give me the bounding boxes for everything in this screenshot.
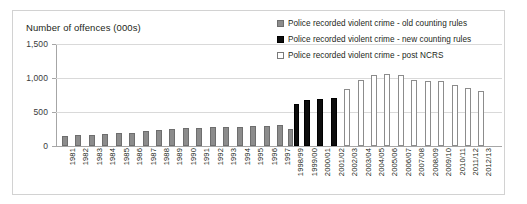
x-tick-label: 2010/11 xyxy=(458,148,467,176)
x-axis-labels: 1981198219831984198519861987198819891990… xyxy=(56,148,502,192)
x-tick-label: 1982 xyxy=(81,148,90,165)
x-tick-label: 1988 xyxy=(162,148,171,165)
x-tick-label: 1992 xyxy=(216,148,225,165)
x-tick-label: 2003/04 xyxy=(364,148,373,176)
x-tick-label: 1990 xyxy=(189,148,198,165)
legend-swatch-ncrs-icon xyxy=(277,52,284,59)
bar-old-1997 xyxy=(277,125,283,146)
legend-label: Police recorded violent crime - new coun… xyxy=(288,35,471,44)
x-tick-label: 1987 xyxy=(149,148,158,165)
chart-legend: Police recorded violent crime - old coun… xyxy=(277,16,503,64)
x-tick-label: 1994 xyxy=(243,148,252,165)
y-tick-label: 0 xyxy=(2,141,48,151)
bar-ncrs-2006-07 xyxy=(398,75,404,146)
x-tick-label: 1991 xyxy=(202,148,211,165)
bar-new-2000-01 xyxy=(317,99,323,146)
bar-old-1993 xyxy=(223,127,229,146)
x-tick-label: 1981 xyxy=(68,148,77,165)
legend-item-new[interactable]: Police recorded violent crime - new coun… xyxy=(277,32,503,46)
x-tick-label: 2005/06 xyxy=(390,148,399,176)
bar-old-1990 xyxy=(183,128,189,146)
x-tick-label: 1996 xyxy=(270,148,279,165)
legend-swatch-old-icon xyxy=(277,20,284,27)
x-tick-label: 2002/03 xyxy=(350,148,359,176)
bar-old-1995 xyxy=(250,126,256,146)
bar-old-1989 xyxy=(169,129,175,146)
chart-screenshot: Number of offences (000s) 05001,0001,500… xyxy=(0,0,527,204)
x-tick-label: 1986 xyxy=(135,148,144,165)
x-tick-label: 1983 xyxy=(95,148,104,165)
bar-old-1994 xyxy=(237,127,243,146)
bar-old-1986 xyxy=(129,133,135,146)
legend-label: Police recorded violent crime - old coun… xyxy=(288,19,467,28)
bar-ncrs-2010-11 xyxy=(452,85,458,146)
legend-label: Police recorded violent crime - post NCR… xyxy=(288,51,443,60)
bar-ncrs-2002-03 xyxy=(344,89,350,146)
bar-ncrs-2011-12 xyxy=(465,88,471,146)
bar-old-1998-99 xyxy=(288,129,293,146)
bar-old-1992 xyxy=(210,127,216,146)
x-tick-label: 1993 xyxy=(229,148,238,165)
bar-ncrs-2004-05 xyxy=(371,75,377,146)
x-tick-label: 2004/05 xyxy=(377,148,386,176)
bar-old-1988 xyxy=(156,130,162,146)
bar-ncrs-2003-04 xyxy=(358,80,364,146)
bar-old-1987 xyxy=(143,131,149,146)
bar-old-1984 xyxy=(102,134,108,146)
bar-new-1999-00 xyxy=(304,100,310,146)
x-tick-label: 1989 xyxy=(175,148,184,165)
x-tick-label: 2009/10 xyxy=(444,148,453,176)
bar-old-1982 xyxy=(75,135,81,146)
bar-ncrs-2012-13 xyxy=(478,91,484,146)
x-tick-label: 1999/00 xyxy=(310,148,319,176)
bar-old-1996 xyxy=(264,126,270,146)
x-tick-label: 1995 xyxy=(256,148,265,165)
bar-ncrs-2009-10 xyxy=(438,81,444,146)
x-tick-label: 2000/01 xyxy=(323,148,332,176)
x-tick-label: 1985 xyxy=(122,148,131,165)
x-tick-label: 2006/07 xyxy=(404,148,413,176)
x-tick-label: 2001/02 xyxy=(337,148,346,176)
y-tick-label: 1,000 xyxy=(2,73,48,83)
x-tick-label: 1998/99 xyxy=(296,148,305,176)
x-tick-label: 2011/12 xyxy=(471,148,480,176)
y-tick-label: 1,500 xyxy=(2,39,48,49)
y-tick-label: 500 xyxy=(2,107,48,117)
legend-item-old[interactable]: Police recorded violent crime - old coun… xyxy=(277,16,503,30)
x-tick-label: 1984 xyxy=(108,148,117,165)
bar-ncrs-2007-08 xyxy=(411,80,417,146)
x-tick-label: 1997 xyxy=(283,148,292,165)
bar-old-1983 xyxy=(89,135,95,146)
bar-old-1985 xyxy=(116,133,122,146)
y-axis-title: Number of offences (000s) xyxy=(26,22,141,33)
gridline-0 xyxy=(56,146,502,147)
legend-swatch-new-icon xyxy=(277,36,284,43)
bar-old-1991 xyxy=(196,128,202,146)
bar-ncrs-2005-06 xyxy=(384,74,390,146)
bar-ncrs-2008-09 xyxy=(425,81,431,146)
legend-item-ncrs[interactable]: Police recorded violent crime - post NCR… xyxy=(277,48,503,62)
x-tick-label: 2008/09 xyxy=(431,148,440,176)
x-tick-label: 2007/08 xyxy=(417,148,426,176)
x-tick-label: 2012/13 xyxy=(484,148,493,176)
bar-old-1981 xyxy=(62,136,68,146)
bar-new-1998-99 xyxy=(294,104,299,146)
bar-new-2001-02 xyxy=(331,98,337,146)
